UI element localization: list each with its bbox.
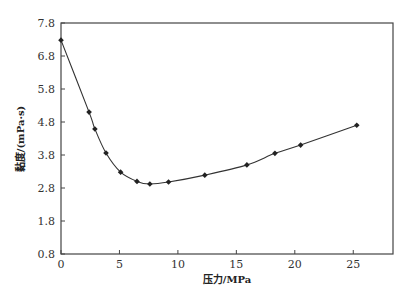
y-tick-label: 1.8 [38,215,56,228]
y-tick-label: 3.8 [38,149,56,162]
diamond-marker [58,37,64,43]
data-markers [58,37,359,186]
y-tick-label: 0.8 [38,248,56,261]
diamond-marker [147,181,153,187]
diamond-marker [166,179,172,185]
x-tick-label: 5 [116,258,123,271]
data-line [61,40,357,184]
y-tick-label: 6.8 [38,50,56,63]
diamond-marker [134,179,140,185]
x-tick-label: 15 [229,258,243,271]
x-tick-label: 0 [58,258,65,271]
diamond-marker [86,109,92,115]
x-axis-label: 压力/MPa [203,273,252,285]
y-axis-label: 黏度/(mPa·s) [14,106,26,173]
y-tick-label: 7.8 [38,17,56,30]
x-axis: 0510152025 [58,250,361,271]
viscosity-pressure-chart: 0.81.82.83.84.85.86.87.8 0510152025 压力/M… [0,0,416,306]
diamond-marker [103,150,109,156]
y-tick-label: 5.8 [38,83,56,96]
diamond-marker [244,162,250,168]
diamond-marker [92,126,98,132]
diamond-marker [272,151,278,157]
x-tick-label: 10 [171,258,185,271]
plot-frame [61,23,393,254]
x-tick-label: 20 [288,258,302,271]
x-tick-label: 25 [346,258,360,271]
diamond-marker [298,142,304,148]
y-tick-label: 2.8 [38,182,56,195]
y-tick-label: 4.8 [38,116,56,129]
plot-border [61,23,393,254]
diamond-marker [202,172,208,178]
diamond-marker [354,123,360,129]
